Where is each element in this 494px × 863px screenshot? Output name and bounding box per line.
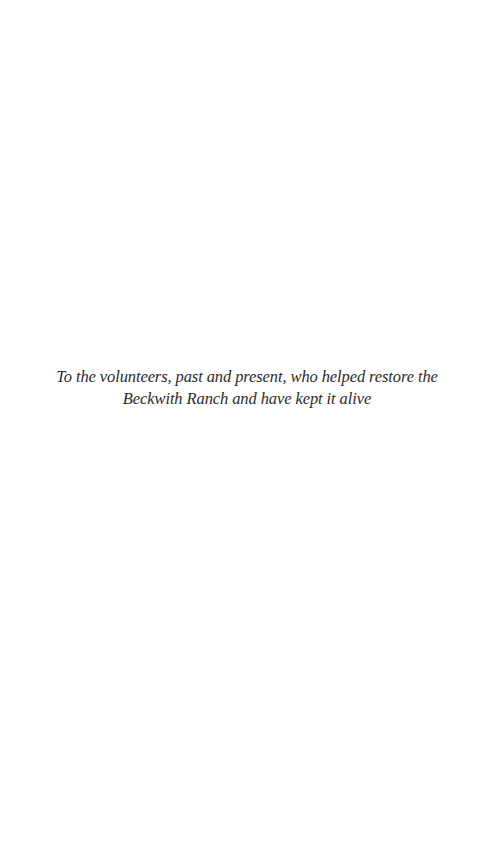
dedication-text: To the volunteers, past and present, who… xyxy=(30,366,464,410)
book-page: To the volunteers, past and present, who… xyxy=(0,0,494,863)
